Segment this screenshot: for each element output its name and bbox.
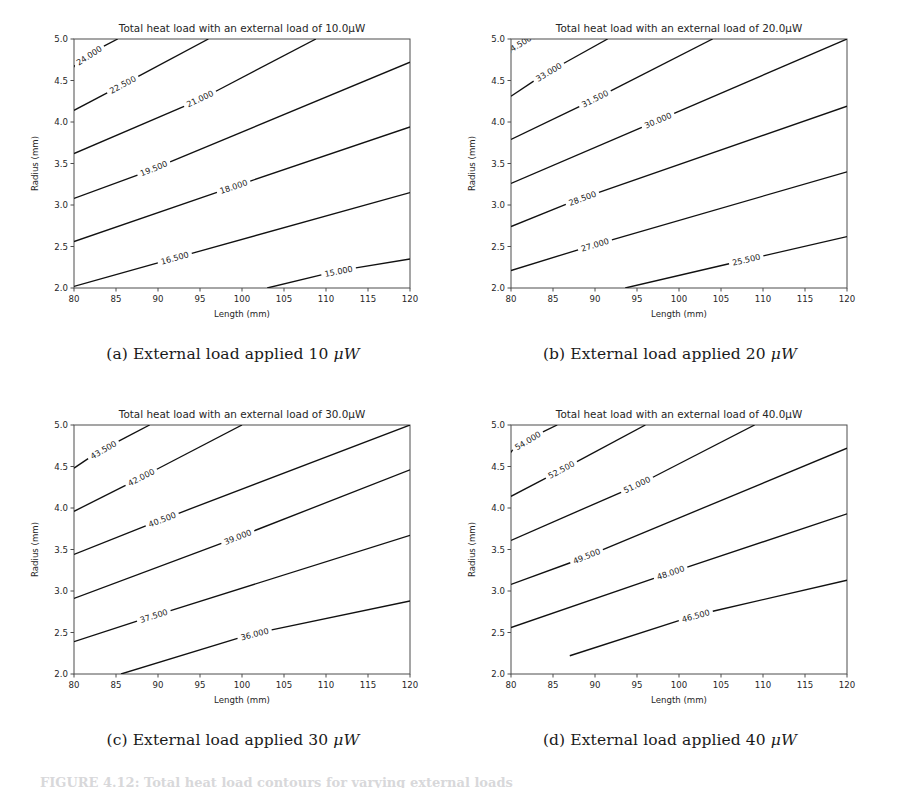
y-tick-label: 3.5 — [491, 545, 505, 555]
y-tick-label: 2.5 — [54, 242, 68, 252]
contour-line — [612, 172, 847, 240]
contour-label: 21.000 — [185, 88, 215, 109]
contour-label: 52.500 — [546, 459, 576, 481]
contour-label: 24.000 — [74, 44, 103, 68]
subfigure-caption-d-unit: μW — [771, 731, 797, 749]
x-tick-label: 105 — [276, 680, 292, 690]
contour-label: 25.500 — [731, 252, 761, 268]
contour-line — [543, 425, 557, 432]
x-axis-label: Length (mm) — [651, 309, 707, 319]
contour-line — [763, 237, 847, 256]
contour-line — [170, 62, 410, 162]
y-tick-label: 2.5 — [491, 628, 505, 638]
y-axis-label: Radius (mm) — [467, 136, 477, 191]
contour-label: 34.500 — [504, 33, 534, 56]
y-tick-label: 5.0 — [54, 34, 68, 44]
contour-line — [171, 535, 410, 610]
contour-label: 15.000 — [324, 264, 354, 280]
x-tick-label: 120 — [839, 294, 855, 304]
x-tick-label: 80 — [506, 294, 517, 304]
contour-panel-a: Total heat load with an external load of… — [18, 18, 448, 348]
contour-line — [511, 107, 579, 140]
x-tick-label: 110 — [318, 294, 334, 304]
y-tick-label: 5.0 — [491, 420, 505, 430]
y-tick-label: 3.5 — [491, 159, 505, 169]
contour-plot-c: Total heat load with an external load of… — [18, 404, 448, 734]
contour-label: 31.500 — [580, 88, 610, 110]
contour-line — [192, 193, 410, 254]
contour-line — [577, 425, 645, 462]
x-tick-label: 120 — [402, 294, 418, 304]
y-tick-label: 3.0 — [54, 200, 68, 210]
x-tick-label: 90 — [153, 680, 164, 690]
y-axis-label: Radius (mm) — [30, 522, 40, 577]
contour-plot-b: Total heat load with an external load of… — [455, 18, 885, 348]
y-tick-label: 2.0 — [54, 283, 68, 293]
contour-line — [216, 39, 316, 91]
contour-line — [511, 250, 578, 271]
plot-frame — [511, 39, 847, 288]
x-axis-label: Length (mm) — [651, 695, 707, 705]
plot-title-b: Total heat load with an external load of… — [555, 22, 802, 34]
contour-plot-d: Total heat load with an external load of… — [455, 404, 885, 734]
y-tick-label: 4.0 — [54, 503, 68, 513]
contour-line — [104, 39, 118, 46]
contour-line — [511, 127, 642, 183]
x-tick-label: 115 — [797, 294, 813, 304]
x-tick-label: 120 — [839, 680, 855, 690]
contour-label: 22.500 — [108, 73, 138, 95]
x-tick-label: 90 — [590, 294, 601, 304]
x-tick-label: 100 — [234, 680, 250, 690]
contour-line — [625, 264, 729, 288]
y-tick-label: 4.5 — [54, 76, 68, 86]
contour-plot-a: Total heat load with an external load of… — [18, 18, 448, 348]
y-tick-label: 4.0 — [491, 503, 505, 513]
x-tick-label: 95 — [632, 680, 643, 690]
x-tick-label: 110 — [318, 680, 334, 690]
contour-panel-b: Total heat load with an external load of… — [455, 18, 885, 348]
x-tick-label: 85 — [548, 680, 559, 690]
contour-label: 30.000 — [643, 110, 673, 131]
y-tick-label: 3.5 — [54, 159, 68, 169]
contour-line — [74, 621, 137, 641]
y-tick-label: 2.0 — [491, 283, 505, 293]
subfigure-caption-c-text: (c) External load applied 30 — [107, 731, 334, 749]
subfigure-caption-b: (b) External load applied 20 μW — [455, 345, 885, 363]
contour-panel-d: Total heat load with an external load of… — [455, 404, 885, 734]
contour-line — [74, 263, 158, 286]
plot-title-d: Total heat load with an external load of… — [555, 408, 802, 420]
contour-line — [687, 514, 847, 567]
x-tick-label: 95 — [632, 294, 643, 304]
contour-label: 19.500 — [139, 158, 169, 178]
y-tick-label: 2.0 — [54, 669, 68, 679]
contour-line — [179, 425, 410, 513]
contour-line — [674, 39, 847, 113]
contour-label: 46.500 — [681, 607, 711, 624]
subfigure-caption-d-text: (d) External load applied 40 — [543, 731, 771, 749]
x-tick-label: 90 — [590, 680, 601, 690]
y-tick-label: 4.5 — [491, 76, 505, 86]
contour-line — [74, 459, 88, 469]
contour-label: 43.500 — [88, 438, 118, 461]
contour-line — [599, 106, 847, 192]
plot-title-a: Total heat load with an external load of… — [118, 22, 365, 34]
contour-label: 27.000 — [580, 236, 610, 254]
x-tick-label: 80 — [506, 680, 517, 690]
contour-label: 40.500 — [147, 510, 177, 530]
y-axis-label: Radius (mm) — [30, 136, 40, 191]
plot-title-c: Total heat load with an external load of… — [118, 408, 365, 420]
y-tick-label: 4.5 — [491, 462, 505, 472]
contour-label: 54.000 — [513, 429, 543, 452]
subfigure-caption-a: (a) External load applied 10 μW — [18, 345, 448, 363]
contour-line — [503, 53, 511, 54]
contour-line — [74, 175, 137, 198]
contour-line — [511, 204, 566, 226]
contour-label: 18.000 — [218, 177, 248, 196]
x-tick-label: 95 — [195, 680, 206, 690]
contour-label: 28.500 — [567, 189, 597, 208]
contour-label: 48.000 — [655, 563, 685, 582]
x-tick-label: 105 — [713, 680, 729, 690]
subfigure-caption-a-text: (a) External load applied 10 — [106, 345, 333, 363]
contour-line — [254, 470, 410, 531]
x-tick-label: 105 — [713, 294, 729, 304]
